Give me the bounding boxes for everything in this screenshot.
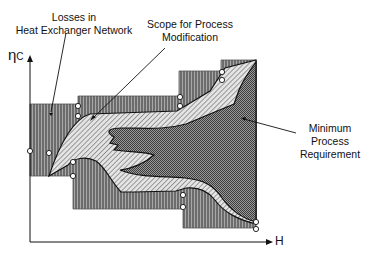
marker-circle-icon xyxy=(75,113,80,118)
marker-circle-icon xyxy=(177,103,182,108)
marker-circle-icon xyxy=(219,69,224,74)
label-min-line1: Minimum xyxy=(290,122,370,135)
marker-circle-icon xyxy=(75,103,80,108)
marker-circle-icon xyxy=(70,159,75,164)
label-min-line2: Process xyxy=(290,135,370,148)
marker-circle-icon xyxy=(27,148,32,153)
marker-circle-icon xyxy=(253,226,258,231)
label-min-line3: Requirement xyxy=(290,148,370,161)
label-losses-hen: Losses in Heat Exchanger Network xyxy=(14,11,134,37)
marker-circle-icon xyxy=(46,150,51,155)
label-minimum-process: Minimum Process Requirement xyxy=(290,122,370,161)
label-losses-line1: Losses in xyxy=(14,11,134,24)
y-axis-label: ηC xyxy=(8,46,24,63)
y-axis-subscript: C xyxy=(16,51,23,62)
x-axis-arrow-icon xyxy=(266,239,273,245)
y-axis-arrow-icon xyxy=(27,55,33,62)
leader-losses xyxy=(51,33,66,112)
label-scope-modification: Scope for Process Modification xyxy=(140,18,240,44)
marker-circle-icon xyxy=(253,219,258,224)
marker-circle-icon xyxy=(180,204,185,209)
label-scope-line1: Scope for Process xyxy=(140,18,240,31)
x-axis-label: H xyxy=(275,234,284,248)
marker-circle-icon xyxy=(180,192,185,197)
marker-circle-icon xyxy=(70,173,75,178)
marker-circle-icon xyxy=(177,94,182,99)
label-losses-line2: Heat Exchanger Network xyxy=(14,24,134,37)
marker-circle-icon xyxy=(219,77,224,82)
label-scope-line2: Modification xyxy=(140,31,240,44)
